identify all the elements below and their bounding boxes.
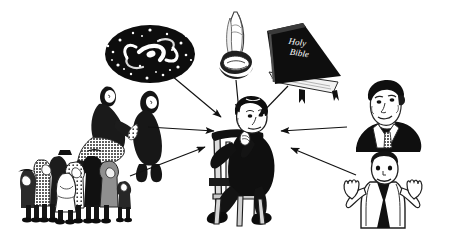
- illustration-canvas: Holy Bible: [0, 0, 450, 236]
- galaxy-figure: [105, 25, 195, 83]
- illustration-artwork: Holy Bible: [0, 0, 450, 236]
